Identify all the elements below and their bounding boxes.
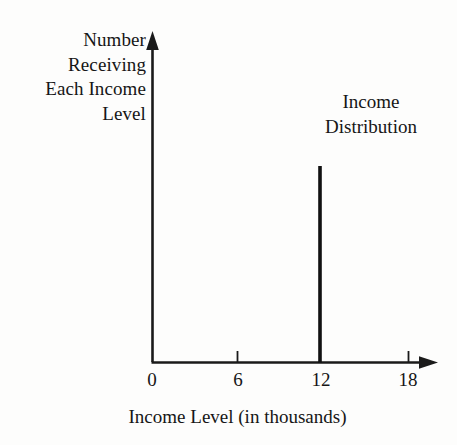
x-axis-title: Income Level (in thousands) [0, 405, 457, 429]
bar-income-12 [318, 166, 322, 363]
x-tick-label-18: 18 [385, 368, 431, 392]
x-tick-label-0: 0 [129, 368, 175, 392]
x-tick-label-6: 6 [215, 368, 261, 392]
y-axis-arrowhead-icon [146, 31, 159, 50]
x-tick-label-12: 12 [298, 368, 344, 392]
x-axis-arrowhead-icon [419, 356, 438, 369]
chart-figure: Number Receiving Each Income Level Incom… [0, 0, 457, 445]
